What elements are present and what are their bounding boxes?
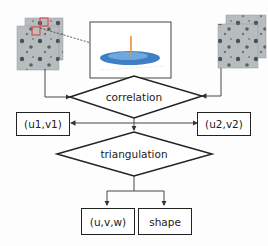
correlation-plot [90,22,171,78]
uv2-box: (u2,v2) [197,112,251,136]
flowchart: correlation (u1,v1) (u2,v2) triangulatio… [0,0,268,246]
left-image-stack [17,18,91,70]
uvw-box: (u,v,w) [81,208,135,235]
correlation-label: correlation [100,92,168,103]
uv1-box: (u1,v1) [16,112,70,136]
shape-box: shape [138,208,192,235]
triangulation-label: triangulation [95,149,173,160]
right-image-stack [218,15,266,68]
